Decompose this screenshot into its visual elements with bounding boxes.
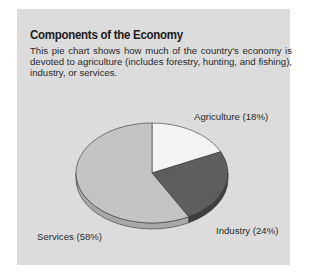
label-services: Services (58%) xyxy=(37,231,102,242)
label-industry: Industry (24%) xyxy=(216,225,278,236)
label-agriculture: Agriculture (18%) xyxy=(194,111,268,122)
